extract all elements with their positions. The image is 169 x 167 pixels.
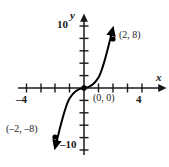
annotation-point-neg2-neg8: (–2, –8) bbox=[6, 124, 38, 134]
y-axis-label: y bbox=[70, 10, 75, 21]
cubic-function-graph: y x 10 –10 –4 4 (2, 8) (0, 0) (–2, –8) bbox=[0, 0, 169, 167]
point-marker-2-8 bbox=[110, 36, 115, 41]
y-tick-label-neg10: –10 bbox=[60, 139, 77, 150]
y-tick-label-10: 10 bbox=[57, 19, 68, 30]
point-marker-neg2-neg8 bbox=[52, 134, 57, 139]
point-marker-0-0 bbox=[81, 85, 87, 91]
x-tick-label-neg4: –4 bbox=[16, 94, 27, 105]
cubic-curve-lower bbox=[57, 88, 85, 142]
annotation-point-0-0: (0, 0) bbox=[93, 93, 115, 103]
x-axis-label: x bbox=[156, 72, 162, 83]
cubic-curve-upper bbox=[84, 34, 112, 88]
x-tick-label-4: 4 bbox=[136, 94, 142, 105]
annotation-point-2-8: (2, 8) bbox=[119, 30, 141, 40]
graph-canvas bbox=[0, 0, 169, 167]
